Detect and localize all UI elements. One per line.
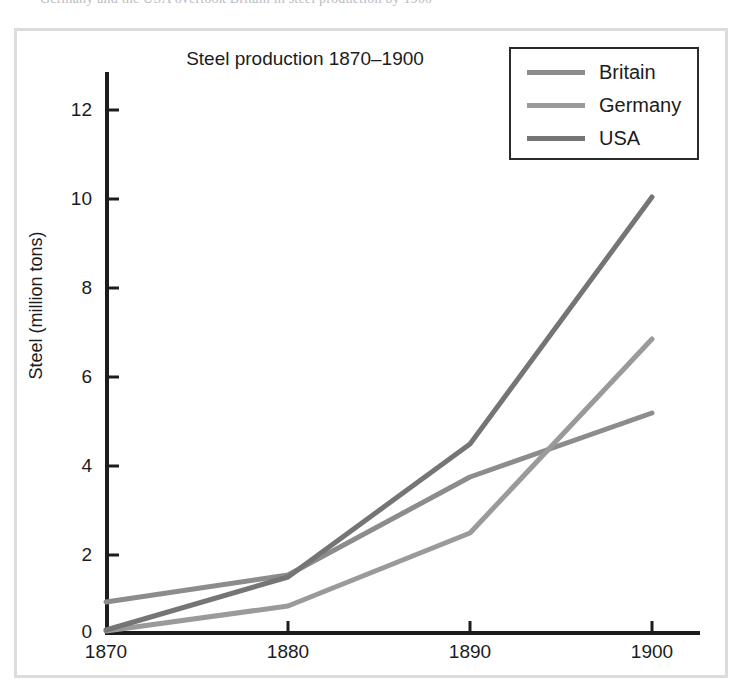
x-tick-label: 1890 — [425, 641, 515, 663]
chart-title: Steel production 1870–1900 — [110, 48, 500, 70]
chart-figure: Steel production 1870–1900 Steel (millio… — [0, 0, 745, 696]
legend-swatch-icon — [527, 136, 585, 141]
legend-item-germany: Germany — [511, 90, 701, 120]
chart-page: Germany and the USA overtook Britain in … — [0, 0, 745, 696]
x-tick-label: 1880 — [243, 641, 333, 663]
y-tick-label: 0 — [46, 621, 92, 643]
y-tick-label: 10 — [46, 188, 92, 210]
legend-label: Germany — [599, 94, 681, 117]
legend-item-britain: Britain — [511, 57, 701, 87]
y-tick-label: 4 — [46, 455, 92, 477]
x-tick-label: 1900 — [607, 641, 697, 663]
legend-item-usa: USA — [511, 123, 701, 153]
legend-label: Britain — [599, 61, 656, 84]
y-tick-label: 12 — [46, 99, 92, 121]
x-tick-label: 1870 — [61, 641, 151, 663]
y-tick-label: 8 — [46, 277, 92, 299]
legend-swatch-icon — [527, 103, 585, 108]
legend-label: USA — [599, 127, 640, 150]
y-tick-label: 6 — [46, 366, 92, 388]
series-line-germany — [106, 339, 652, 631]
y-axis-label: Steel (million tons) — [26, 206, 47, 406]
legend-swatch-icon — [527, 70, 585, 75]
y-tick-label: 2 — [46, 544, 92, 566]
series-line-usa — [106, 197, 652, 630]
chart-legend: Britain Germany USA — [509, 47, 699, 160]
